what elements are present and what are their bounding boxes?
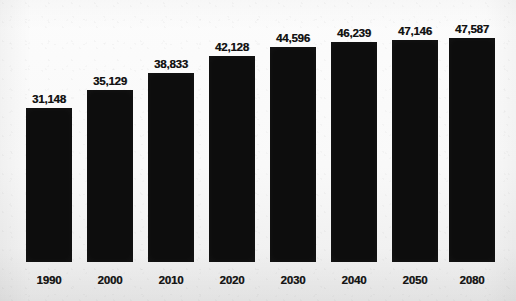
bar-value-label: 46,239 bbox=[337, 27, 371, 39]
bar-category-label: 2050 bbox=[403, 274, 428, 286]
bar-value-label: 42,128 bbox=[215, 41, 249, 53]
bar-group: 46,239 2040 bbox=[331, 0, 377, 301]
bar-rect bbox=[270, 47, 316, 262]
bar-group: 31,148 1990 bbox=[26, 0, 72, 301]
bar-rect bbox=[449, 38, 495, 262]
bar-rect bbox=[209, 56, 255, 262]
bar-rect bbox=[148, 73, 194, 262]
bar-group: 42,128 2020 bbox=[209, 0, 255, 301]
bar-chart-figure: 31,148 1990 35,129 2000 38,833 2010 42,1… bbox=[0, 0, 516, 301]
bar-rect bbox=[392, 40, 438, 262]
bar-value-label: 44,596 bbox=[276, 32, 310, 44]
plot-area: 31,148 1990 35,129 2000 38,833 2010 42,1… bbox=[0, 0, 516, 301]
bar-group: 47,146 2050 bbox=[392, 0, 438, 301]
bar-rect bbox=[26, 108, 72, 262]
bar-category-label: 2000 bbox=[98, 274, 123, 286]
bar-category-label: 2040 bbox=[342, 274, 367, 286]
bar-value-label: 38,833 bbox=[154, 58, 188, 70]
bar-rect bbox=[87, 90, 133, 262]
bar-value-label: 47,146 bbox=[398, 25, 432, 37]
bar-value-label: 47,587 bbox=[455, 23, 489, 35]
bar-rect bbox=[331, 42, 377, 262]
bar-category-label: 2080 bbox=[460, 274, 485, 286]
bar-category-label: 2030 bbox=[281, 274, 306, 286]
bar-value-label: 31,148 bbox=[32, 93, 66, 105]
bar-group: 44,596 2030 bbox=[270, 0, 316, 301]
bar-group: 35,129 2000 bbox=[87, 0, 133, 301]
bar-group: 47,587 2080 bbox=[449, 0, 495, 301]
bar-category-label: 1990 bbox=[37, 274, 62, 286]
bar-category-label: 2020 bbox=[220, 274, 245, 286]
bar-value-label: 35,129 bbox=[93, 75, 127, 87]
bar-category-label: 2010 bbox=[159, 274, 184, 286]
bar-group: 38,833 2010 bbox=[148, 0, 194, 301]
